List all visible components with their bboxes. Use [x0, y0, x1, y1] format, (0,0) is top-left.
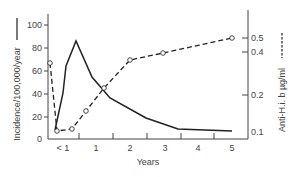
svg-text:3: 3: [162, 143, 167, 153]
svg-text:100: 100: [27, 20, 42, 30]
x-axis-label: Years: [137, 157, 160, 167]
left-tick-labels: 0 20 40 60 80 100: [27, 20, 42, 144]
svg-text:5: 5: [229, 143, 234, 153]
left-axis: [44, 14, 48, 139]
svg-text:0.5: 0.5: [251, 33, 264, 43]
right-axis-label: Anti-H.i. b µg/ml: [277, 68, 287, 132]
svg-text:60: 60: [32, 66, 42, 76]
antibody-series-markers: [48, 36, 235, 134]
svg-text:2: 2: [127, 143, 132, 153]
svg-text:1: 1: [93, 143, 98, 153]
chart: 0 20 40 60 80 100 0.1 0.2 0.4 0.5 < 1 1 …: [0, 0, 294, 177]
svg-text:40: 40: [32, 89, 42, 99]
right-tick-labels: 0.1 0.2 0.4 0.5: [251, 33, 264, 137]
right-axis: [242, 10, 248, 139]
svg-text:0.2: 0.2: [251, 90, 264, 100]
svg-text:4: 4: [195, 143, 200, 153]
svg-text:20: 20: [32, 112, 42, 122]
svg-text:0: 0: [37, 134, 42, 144]
x-axis: [48, 133, 248, 139]
x-tick-labels: < 1 1 2 3 4 5: [57, 143, 235, 153]
left-axis-label: Incidence/100,000/year: [12, 47, 22, 141]
svg-text:< 1: < 1: [57, 143, 70, 153]
svg-text:80: 80: [32, 43, 42, 53]
svg-text:0.1: 0.1: [251, 127, 264, 137]
antibody-series-line: [50, 38, 232, 131]
svg-text:0.4: 0.4: [251, 47, 264, 57]
